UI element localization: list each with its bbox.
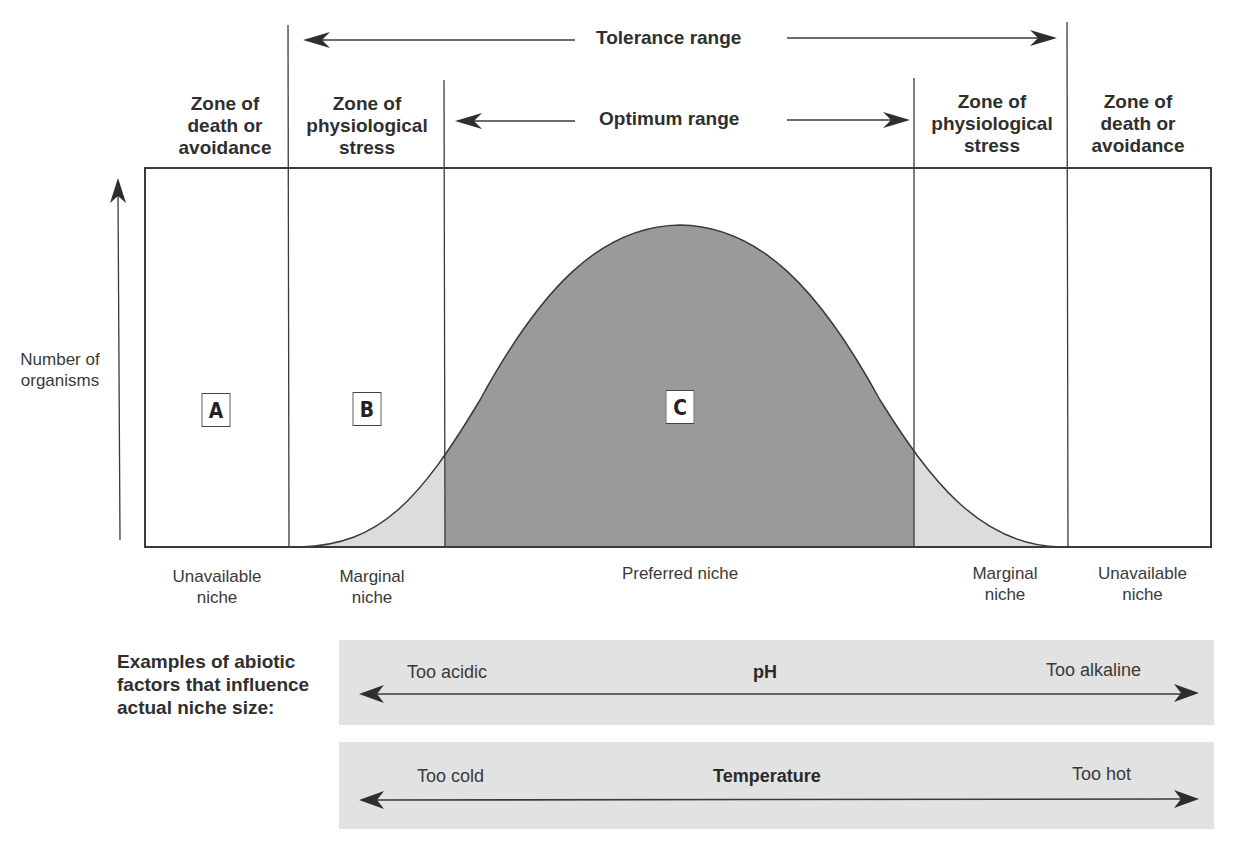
region-marker-a: A (202, 393, 231, 427)
factor-bar-temperature: Too cold Temperature Too hot (339, 742, 1214, 829)
niche-label-unavailable-right: Unavailableniche (1070, 563, 1215, 605)
zone-death-right-label: Zone ofdeath oravoidance (1072, 91, 1204, 157)
region-marker-c: C (666, 390, 695, 424)
region-marker-b: B (353, 392, 382, 426)
examples-label: Examples of abioticfactors that influenc… (117, 650, 309, 719)
zone-death-left-label: Zone ofdeath oravoidance (160, 93, 290, 159)
optimum-range-label: Optimum range (595, 108, 743, 130)
factor-ph-arrow (339, 640, 1214, 725)
niche-label-marginal-right: Marginalniche (930, 563, 1080, 605)
tolerance-right-divider (1067, 22, 1068, 547)
zone-stress-left-label: Zone ofphysiologicalstress (294, 93, 440, 159)
zone-stress-right-label: Zone ofphysiologicalstress (918, 91, 1066, 157)
y-axis-arrow (110, 178, 126, 540)
factor-bar-ph: Too acidic pH Too alkaline (339, 640, 1214, 725)
niche-label-preferred: Preferred niche (560, 563, 800, 584)
niche-label-marginal-left: Marginalniche (300, 566, 444, 608)
niche-label-unavailable-left: Unavailableniche (145, 566, 289, 608)
y-axis-label: Number oforganisms (10, 349, 110, 391)
factor-temperature-arrow (339, 742, 1214, 829)
tolerance-range-label: Tolerance range (592, 27, 745, 49)
bell-curve (300, 225, 1060, 547)
